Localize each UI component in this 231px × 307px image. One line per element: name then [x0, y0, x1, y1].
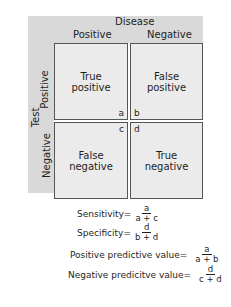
formula-label: Specificity= — [77, 228, 131, 238]
cell-line1: False — [55, 150, 127, 161]
cell-line2: positive — [131, 82, 202, 93]
corner-c: c — [119, 124, 124, 134]
cell-line2: positive — [55, 82, 127, 93]
formula-sensitivity: Sensitivity= aa + c — [77, 204, 160, 223]
denominator: a + b — [193, 255, 220, 264]
cell-true-negative: Truenegative d — [130, 122, 203, 199]
corner-b: b — [134, 108, 140, 118]
formula-specificity: Specificity= db + d — [77, 223, 160, 242]
row-negative-label: Negative — [41, 133, 52, 179]
formula-ppv: Positive predictive value= aa + b — [70, 245, 221, 264]
formula-label: Negative predicitve value= — [68, 270, 191, 280]
formula-npv: Negative predicitve value= dc + d — [68, 265, 224, 284]
col-negative-label: Negative — [147, 29, 192, 40]
cell-line1: True — [55, 71, 127, 82]
cell-false-positive: Falsepositive b — [130, 43, 203, 120]
cell-line2: negative — [131, 161, 202, 172]
formula-label: Sensitivity= — [77, 209, 131, 219]
test-title: Test — [30, 103, 41, 133]
cell-line1: True — [131, 150, 202, 161]
denominator: b + d — [133, 233, 160, 242]
formula-label: Positive predictive value= — [70, 250, 187, 260]
cell-line1: False — [131, 71, 202, 82]
denominator: c + d — [197, 275, 224, 284]
cell-false-negative: Falsenegative c — [54, 122, 128, 199]
cell-true-positive: Truepositive a — [54, 43, 128, 120]
cell-line2: negative — [55, 161, 127, 172]
corner-d: d — [134, 124, 140, 134]
col-positive-label: Positive — [73, 29, 112, 40]
corner-a: a — [118, 108, 124, 118]
disease-title: Disease — [115, 16, 154, 27]
